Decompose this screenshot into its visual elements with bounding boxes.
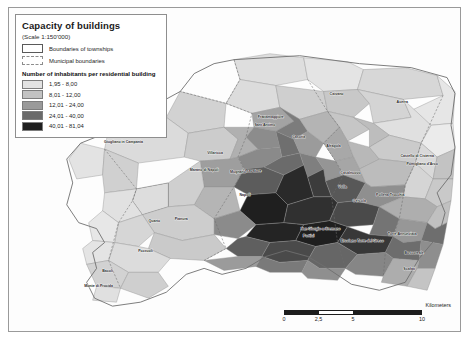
place-label: Scafati (403, 267, 415, 271)
place-label: San Giorgio a Cremano (301, 227, 342, 231)
place-label: Giugliano in Campania (104, 140, 144, 144)
place-label: Pollena Trocchia (376, 193, 405, 197)
legend-class-label: 1,95 - 8,00 (49, 80, 77, 88)
legend-class-label: 8,01 - 12,00 (49, 91, 80, 99)
scalebar-tick-label: 10 (419, 315, 425, 323)
legend-class-swatch (22, 101, 43, 110)
place-label: Afragola (326, 144, 342, 148)
legend-item-townships: Boundaries of townships (22, 44, 160, 53)
place-label: Frattamaggiore (258, 115, 284, 119)
scalebar-tick-label: 2,5 (315, 315, 323, 323)
map-figure: CaivanoAcerraFrattamaggioreSant'AntimoCa… (8, 7, 461, 332)
scalebar-tick-label: 0 (283, 315, 286, 323)
legend-class-row: 24,01 - 40,00 (22, 111, 160, 120)
legend-class-swatch (22, 122, 43, 131)
place-label: Mugnano (230, 170, 247, 174)
place-label: Casalnuovo (340, 171, 361, 175)
municipal-boundary-swatch (22, 56, 43, 65)
legend-class-row: 1,95 - 8,00 (22, 80, 160, 89)
legend-class-swatch (22, 90, 43, 99)
legend-item-label: Boundaries of townships (49, 45, 113, 53)
legend-class-swatch (22, 111, 43, 120)
legend-class-label: 12,01 - 24,00 (49, 101, 84, 109)
scalebar-ticks: 02,5510 (284, 315, 422, 324)
place-label: Portici (303, 234, 314, 238)
place-label: Cercola (353, 199, 367, 203)
place-label: Castello di Cisterna (400, 154, 434, 158)
scalebar-segment (319, 311, 353, 314)
place-label: Torre Annunziata (388, 232, 418, 236)
legend-class-label: 40,01 - 81,04 (49, 122, 84, 130)
place-label: Pianura (175, 217, 189, 221)
place-label: Torre del Greco (357, 239, 384, 243)
place-label: Boscoreale (405, 251, 424, 255)
scalebar-segment (353, 311, 421, 314)
scalebar-segment (285, 311, 319, 314)
place-label: Ercolano (341, 239, 357, 243)
legend-scale-note: (Scale 1:150'000) (22, 33, 160, 41)
legend-class-label: 24,01 - 40,00 (49, 112, 84, 120)
place-label: Bacoli (102, 269, 113, 273)
place-label: Quarto (148, 219, 161, 223)
legend-class-row: 8,01 - 12,00 (22, 90, 160, 99)
place-label: Napoli (239, 193, 250, 197)
place-label: Acerra (397, 100, 409, 104)
legend-classes-heading: Number of inhabitants per residential bu… (22, 70, 160, 78)
place-label: Sant'Antimo (254, 123, 276, 127)
township-boundary-swatch (22, 44, 43, 53)
legend-class-row: 12,01 - 24,00 (22, 101, 160, 110)
place-label: Caivano (330, 92, 345, 96)
township-polygon (93, 286, 121, 302)
place-label: Volla (338, 185, 347, 189)
legend-title: Capacity of buildings (22, 20, 160, 31)
legend-item-label: Municipal boundaries (49, 57, 105, 65)
place-label: Pomigliano d'Arco (406, 162, 438, 166)
scalebar-tick-label: 5 (352, 315, 355, 323)
legend-class-list: 1,95 - 8,008,01 - 12,0012,01 - 24,0024,0… (22, 80, 160, 131)
map-scalebar: Kilometers 02,5510 (284, 302, 452, 324)
map-legend: Capacity of buildings (Scale 1:150'000) … (15, 14, 167, 138)
legend-class-row: 40,01 - 81,04 (22, 122, 160, 131)
place-label: Monte di Procida (84, 284, 114, 288)
place-label: Pozzuoli (138, 249, 153, 253)
place-label: Marano di Napoli (190, 168, 219, 172)
legend-class-swatch (22, 80, 43, 89)
scalebar-units-label: Kilometers (284, 302, 452, 309)
place-label: Villaricca (207, 151, 224, 155)
legend-item-municipal: Municipal boundaries (22, 56, 160, 65)
place-label: Casoria (292, 135, 306, 139)
